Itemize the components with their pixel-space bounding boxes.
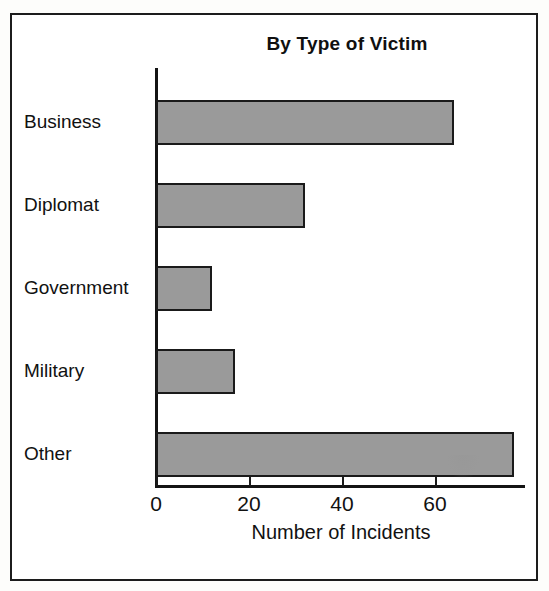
x-tick-40 — [342, 476, 344, 486]
bar-military[interactable] — [156, 349, 235, 394]
x-tick-20 — [249, 476, 251, 486]
figure-canvas: By Type of Victim Business Diplomat Gove… — [0, 0, 549, 591]
category-label-other: Other — [24, 443, 152, 465]
bar-other[interactable] — [156, 432, 514, 477]
bar-government[interactable] — [156, 266, 212, 311]
x-tick-0 — [156, 476, 158, 486]
x-tick-label-0: 0 — [126, 492, 186, 516]
category-label-diplomat: Diplomat — [24, 194, 152, 216]
x-tick-label-60: 60 — [405, 492, 465, 516]
bar-business[interactable] — [156, 100, 454, 145]
category-label-business: Business — [24, 111, 152, 133]
value-axis-line — [155, 485, 525, 488]
x-axis-title: Number of Incidents — [156, 521, 526, 544]
x-tick-label-20: 20 — [219, 492, 279, 516]
x-tick-label-40: 40 — [312, 492, 372, 516]
category-label-military: Military — [24, 360, 152, 382]
plot-area: Business Diplomat Government Military Ot… — [0, 0, 549, 591]
category-label-government: Government — [24, 277, 152, 299]
x-tick-60 — [435, 476, 437, 486]
bar-diplomat[interactable] — [156, 183, 305, 228]
